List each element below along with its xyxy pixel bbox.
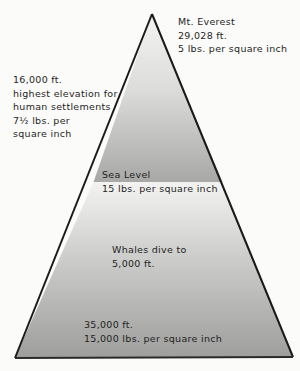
whales-desc: Whales dive to bbox=[112, 243, 187, 257]
everest-name: Mt. Everest bbox=[178, 15, 287, 29]
whales-label: Whales dive to 5,000 ft. bbox=[112, 243, 187, 270]
deep-depth: 35,000 ft. bbox=[84, 318, 222, 332]
sea-level-name: Sea Level bbox=[102, 168, 218, 182]
whales-depth: 5,000 ft. bbox=[112, 257, 187, 271]
settlements-pressure-2: square inch bbox=[13, 127, 118, 141]
everest-label: Mt. Everest 29,028 ft. 5 lbs. per square… bbox=[178, 15, 287, 56]
settlements-altitude: 16,000 ft. bbox=[13, 73, 118, 87]
settlements-desc-1: highest elevation for bbox=[13, 87, 118, 101]
sea-level-label: Sea Level 15 lbs. per square inch bbox=[102, 168, 218, 195]
settlements-desc-2: human settlements bbox=[13, 100, 118, 114]
deep-pressure: 15,000 lbs. per square inch bbox=[84, 332, 222, 346]
sea-level-pressure: 15 lbs. per square inch bbox=[102, 182, 218, 196]
pressure-diagram: Mt. Everest 29,028 ft. 5 lbs. per square… bbox=[0, 0, 300, 371]
everest-pressure: 5 lbs. per square inch bbox=[178, 42, 287, 56]
everest-altitude: 29,028 ft. bbox=[178, 29, 287, 43]
settlements-label: 16,000 ft. highest elevation for human s… bbox=[13, 73, 118, 141]
settlements-pressure-1: 7½ lbs. per bbox=[13, 114, 118, 128]
deep-ocean-label: 35,000 ft. 15,000 lbs. per square inch bbox=[84, 318, 222, 345]
pyramid-base bbox=[15, 357, 293, 358]
